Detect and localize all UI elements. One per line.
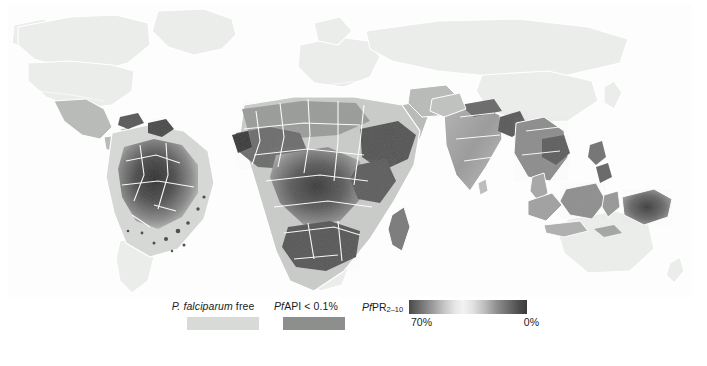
legend-label-pfpr-italic: Pf	[362, 301, 372, 313]
legend-tick-70-percent: 70%	[411, 316, 432, 328]
legend-label-falciparum-free-rest: free	[233, 300, 255, 312]
legend-tick-0-percent: 0%	[524, 316, 539, 328]
legend-label-falciparum-free-italic: P. falciparum	[172, 300, 233, 312]
legend-pfpr-ticks: 70% 0%	[417, 316, 535, 330]
legend-label-pfpr: PfPR2–10	[362, 301, 403, 314]
map-legend: P. falciparum free PfAPI < 0.1% PfPR2–10…	[0, 300, 707, 352]
world-map-graphic	[8, 5, 692, 297]
legend-label-falciparum-free: P. falciparum free	[167, 300, 259, 313]
legend-label-api-italic: Pf	[274, 300, 284, 312]
legend-swatch-falciparum-free	[187, 317, 259, 330]
legend-item-api-low: PfAPI < 0.1%	[274, 300, 345, 330]
world-map-panel	[8, 5, 692, 297]
legend-gradient-bar	[409, 300, 527, 314]
legend-swatch-api-low	[283, 317, 345, 330]
legend-label-pfpr-subscript: 2–10	[387, 305, 404, 314]
legend-item-falciparum-free: P. falciparum free	[167, 300, 259, 330]
legend-item-pfpr: PfPR2–10 70% 0%	[362, 300, 535, 330]
legend-label-api-rest: API < 0.1%	[284, 300, 338, 312]
malaria-endemicity-figure: P. falciparum free PfAPI < 0.1% PfPR2–10…	[0, 0, 707, 366]
legend-pfpr-row: PfPR2–10	[362, 300, 535, 314]
legend-label-api-low: PfAPI < 0.1%	[274, 300, 345, 313]
legend-label-pfpr-rest: PR	[372, 301, 387, 313]
